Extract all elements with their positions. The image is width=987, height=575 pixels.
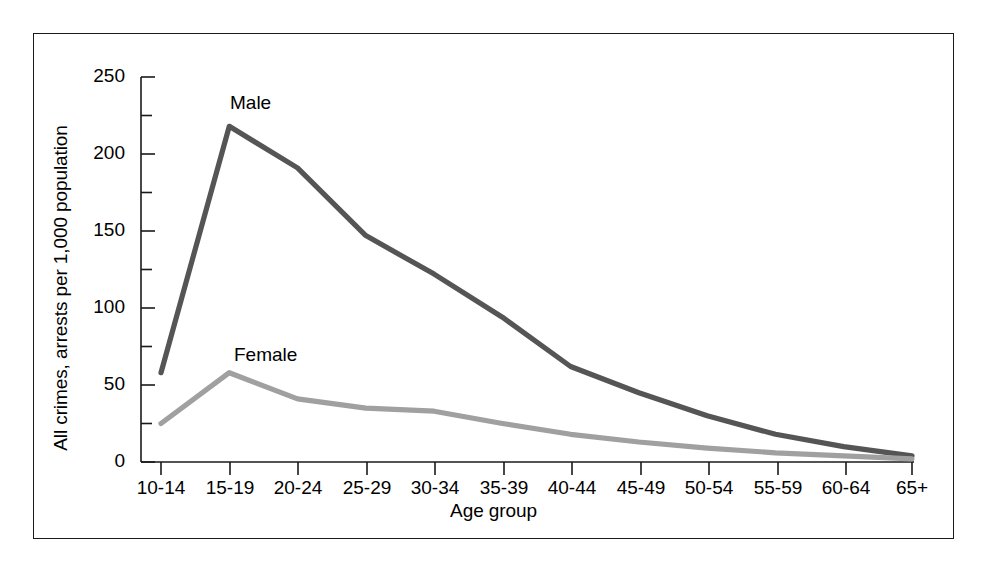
y-axis-minor-ticks: [141, 116, 152, 424]
series-annotation-male: Male: [230, 92, 271, 114]
figure-canvas: 250 200 150 100 50 0 10-14 15-19 20-24 2…: [0, 0, 987, 575]
line-series-male: [161, 126, 912, 456]
x-axis-title-wrap: Age group: [0, 500, 987, 522]
y-axis-title: All crimes, arrests per 1,000 population: [50, 125, 72, 451]
x-axis-ticks: [161, 462, 912, 475]
chart-plot-area: [34, 34, 952, 537]
line-series-female: [161, 373, 912, 459]
x-axis-title: Age group: [450, 500, 537, 522]
x-tick-label-65plus: 65+: [862, 477, 962, 499]
y-axis-title-wrap: All crimes, arrests per 1,000 population: [50, 118, 72, 458]
series-annotation-female: Female: [234, 344, 297, 366]
y-tick-label-250: 250: [59, 65, 125, 87]
chart-frame: 250 200 150 100 50 0 10-14 15-19 20-24 2…: [33, 33, 954, 539]
